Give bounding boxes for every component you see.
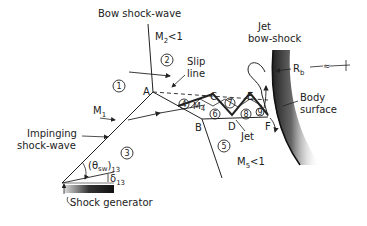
region-1: 1 — [113, 80, 125, 92]
delta-label: δ13 — [110, 173, 125, 187]
region-2: 2 — [161, 54, 173, 66]
impinging-label-1: Impinging — [27, 128, 77, 139]
body-label-1: Body — [300, 92, 325, 103]
impinging-label-2: shock-wave — [17, 140, 76, 151]
rb-label: Rb — [293, 63, 305, 77]
svg-text:9: 9 — [257, 108, 262, 117]
region-5: 5 — [218, 140, 230, 152]
m1-label: M1 — [93, 105, 106, 119]
break-symbol: ≈ — [323, 61, 331, 71]
shock-generator-label: Shock generator — [70, 197, 154, 208]
body-label-2: surface — [300, 104, 337, 115]
svg-text:3: 3 — [124, 149, 129, 158]
flow-arrow-4 — [128, 113, 160, 120]
jet-shock-train — [178, 93, 268, 115]
region-9: 9 — [256, 108, 264, 117]
region-8: 8 — [241, 109, 251, 119]
jet-upflow-arrow — [264, 86, 266, 108]
slip-pointer — [172, 75, 185, 87]
jet-bow-shock-label-2: bow-shock — [248, 33, 301, 44]
point-c: C — [210, 91, 217, 102]
point-e: E — [247, 91, 253, 102]
svg-text:7: 7 — [227, 99, 232, 108]
svg-text:2: 2 — [164, 56, 169, 65]
m4-label: M4 — [193, 101, 206, 113]
svg-text:1: 1 — [116, 82, 121, 91]
svg-text:8: 8 — [243, 110, 248, 119]
svg-text:6: 6 — [212, 110, 217, 119]
m5-label: M5<1 — [237, 156, 265, 170]
region-7: 7 — [225, 98, 235, 108]
theta-label: (θsw)13 — [88, 160, 120, 174]
point-b: B — [195, 122, 202, 133]
m2-label: M2<1 — [155, 31, 183, 45]
region-3: 3 — [121, 147, 133, 159]
rb-dimension-line — [310, 66, 323, 67]
slip-label-2: line — [187, 68, 205, 79]
bow-shock-label: Bow shock-wave — [98, 8, 181, 19]
m1-arrow — [100, 118, 115, 120]
point-f: F — [265, 121, 271, 132]
bow-shock-wave: Bow shock-wave — [98, 8, 181, 92]
jet-pointer — [236, 120, 245, 131]
point-d: D — [228, 121, 236, 132]
flow-arrow-2 — [129, 72, 170, 76]
svg-text:4: 4 — [181, 100, 186, 109]
slip-label-1: Slip — [187, 56, 205, 67]
point-a: A — [143, 86, 150, 97]
impinging-pointer — [82, 136, 108, 137]
theta-arc — [82, 162, 86, 179]
jet-bow-shock-label-1: Jet — [257, 21, 271, 32]
region-4: 4 — [179, 99, 189, 109]
jet-label: Jet — [240, 131, 254, 142]
region-6: 6 — [210, 109, 220, 119]
jet-downflow-arrow — [270, 118, 275, 132]
svg-text:5: 5 — [221, 142, 226, 151]
